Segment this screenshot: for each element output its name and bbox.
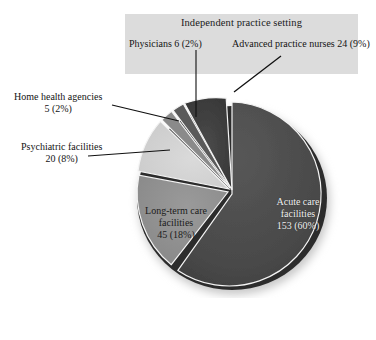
home-health-line1: Home health agencies: [14, 91, 102, 102]
acute-care-slice-label: Acute care facilities 153 (60%): [252, 196, 344, 232]
psychiatric-callout-label: Psychiatric facilities 20 (8%): [21, 141, 102, 165]
advanced-practice-nurses-callout-label: Advanced practice nurses 24 (9%): [232, 38, 356, 50]
pie-graphic: [126, 70, 346, 298]
ltc-label-line2: facilities: [159, 217, 193, 228]
long-term-care-slice-label: Long-term care facilities 45 (18%): [128, 205, 224, 241]
apn-label-line1: Advanced practice nurses: [232, 38, 335, 49]
physicians-callout-label: Physicians 6 (2%): [129, 38, 202, 50]
acute-label-line2: facilities: [281, 208, 315, 219]
ltc-label-line3: 45 (18%): [157, 229, 195, 240]
psychiatric-line2: 20 (8%): [21, 153, 102, 165]
apn-label-line2: 24 (9%): [337, 38, 370, 49]
psychiatric-line1: Psychiatric facilities: [21, 141, 102, 152]
home-health-callout-label: Home health agencies 5 (2%): [14, 91, 102, 115]
acute-label-line1: Acute care: [276, 196, 319, 207]
home-health-line2: 5 (2%): [14, 103, 102, 115]
acute-label-line3: 153 (60%): [277, 220, 320, 231]
chart-title: Independent practice setting: [125, 17, 358, 28]
ltc-label-line1: Long-term care: [145, 205, 207, 216]
pie-chart-figure: Independent practice setting Physicians …: [0, 0, 376, 340]
pie-svg: [126, 70, 346, 298]
